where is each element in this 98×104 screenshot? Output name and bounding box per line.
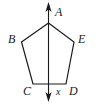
pentagon-shape [22, 23, 75, 84]
vertex-label-e: E [78, 33, 85, 45]
axis-label-x: x [56, 87, 60, 97]
vertex-label-a: A [55, 6, 62, 18]
vertex-label-c: C [23, 85, 31, 97]
vertex-label-d: D [69, 85, 78, 97]
figure-canvas [0, 0, 98, 104]
geometry-figure: A B C D E x [0, 0, 98, 104]
vertex-label-b: B [8, 33, 15, 45]
